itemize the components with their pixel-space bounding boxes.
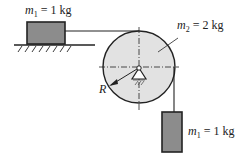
ground-hatching xyxy=(18,46,71,52)
label-m1-hanging: m1 = 1 kg xyxy=(188,124,234,140)
label-m2: m2 = 2 kg xyxy=(177,18,223,34)
label-radius: R xyxy=(99,82,106,97)
pivot-pin xyxy=(137,66,141,70)
label-m1-top: m1 = 1 kg xyxy=(25,3,71,19)
block-m1-hanging xyxy=(162,112,182,152)
block-m1-horizontal xyxy=(27,22,65,44)
